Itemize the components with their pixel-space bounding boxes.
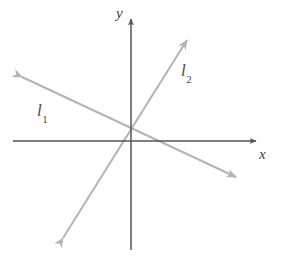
y-axis-label: y — [116, 6, 123, 21]
line-label-l1-subscript: 1 — [42, 113, 48, 125]
coordinate-plane-svg — [0, 0, 282, 260]
line-label-l1: l1 — [37, 102, 47, 122]
line-l1 — [22, 77, 236, 177]
x-axis-label: x — [259, 147, 266, 162]
line-l2-group — [63, 40, 187, 238]
line-l1-group — [22, 77, 236, 177]
line-label-l2-subscript: 2 — [186, 73, 192, 85]
line-l2 — [63, 40, 187, 238]
figure-canvas: y x l1 l2 — [0, 0, 282, 260]
line-label-l2: l2 — [181, 62, 191, 82]
